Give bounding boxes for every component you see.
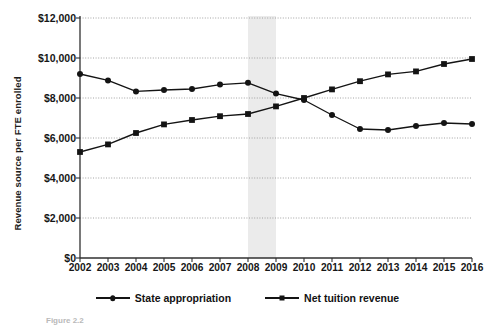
x-tick-label: 2002: [69, 262, 92, 273]
x-tick-label: 2003: [97, 262, 120, 273]
legend-item-state-appropriation[interactable]: State appropriation: [96, 292, 231, 304]
recession-shading: [248, 16, 276, 258]
x-tick-label: 2016: [461, 262, 484, 273]
y-tick-label: $10,000: [18, 52, 76, 64]
figure-caption: Figure 2.2: [46, 316, 84, 325]
legend-swatch-line: [96, 297, 130, 299]
legend-label: Net tuition revenue: [304, 292, 399, 304]
y-tick-label: $6,000: [18, 132, 76, 144]
legend-swatch-line: [265, 297, 299, 299]
square-marker-icon: [280, 296, 285, 301]
x-tick-label: 2010: [293, 262, 316, 273]
y-axis-tick-labels: $12,000 $10,000 $8,000 $6,000 $4,000 $2,…: [12, 0, 76, 326]
x-tick-label: 2012: [349, 262, 372, 273]
chart-legend: State appropriation Net tuition revenue: [0, 292, 495, 304]
x-tick-label: 2014: [405, 262, 428, 273]
x-tick-label: 2013: [377, 262, 400, 273]
y-tick-label: $4,000: [18, 172, 76, 184]
x-tick-label: 2007: [209, 262, 232, 273]
legend-item-net-tuition-revenue[interactable]: Net tuition revenue: [265, 292, 399, 304]
y-tick-label: $12,000: [18, 12, 76, 24]
x-tick-label: 2005: [153, 262, 176, 273]
y-tick-label: $0: [18, 252, 76, 264]
x-tick-label: 2006: [181, 262, 204, 273]
legend-label: State appropriation: [135, 292, 231, 304]
x-tick-label: 2011: [321, 262, 343, 273]
figure-container: Revenue source per FTE enrolled $12,000 …: [0, 0, 495, 326]
x-tick-label: 2004: [125, 262, 148, 273]
y-tick-label: $8,000: [18, 92, 76, 104]
y-tick-label: $2,000: [18, 212, 76, 224]
circle-marker-icon: [110, 295, 116, 301]
x-tick-label: 2008: [237, 262, 260, 273]
x-tick-label: 2015: [433, 262, 456, 273]
x-tick-label: 2009: [265, 262, 288, 273]
